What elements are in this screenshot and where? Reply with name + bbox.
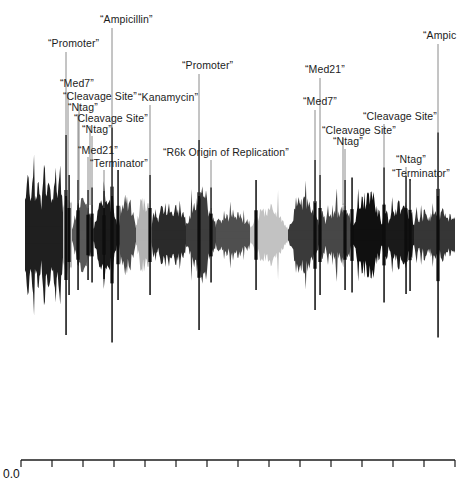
feature-label: “Terminator” <box>392 168 450 179</box>
waveform-plot: “Promoter”“Ampicillin”“Med7”“Cleavage Si… <box>0 0 463 440</box>
feature-label: “Terminator” <box>90 158 148 169</box>
feature-label: “Kanamycin” <box>138 92 198 103</box>
feature-label: “Ampicillin” <box>100 14 153 25</box>
feature-label: “Ntag” <box>333 136 363 147</box>
x-axis: 0.0 <box>0 440 463 489</box>
feature-label: “Ampic <box>423 30 456 41</box>
feature-label: “Med7” <box>303 96 337 107</box>
figure-root: “Promoter”“Ampicillin”“Med7”“Cleavage Si… <box>0 0 463 489</box>
feature-label: “Med7” <box>60 78 94 89</box>
feature-label: “Promoter” <box>182 60 233 71</box>
axis-origin-label: 0.0 <box>3 467 20 481</box>
feature-label: “Med21” <box>305 64 345 75</box>
feature-label: “Ntag” <box>396 154 426 165</box>
feature-label: “Promoter” <box>48 38 99 49</box>
feature-label: “R6k Origin of Replication” <box>163 147 289 158</box>
feature-label: “Ntag” <box>82 124 112 135</box>
axis-svg <box>0 440 463 470</box>
feature-label: “Cleavage Site” <box>363 111 437 122</box>
feature-label: “Med21” <box>78 145 118 156</box>
